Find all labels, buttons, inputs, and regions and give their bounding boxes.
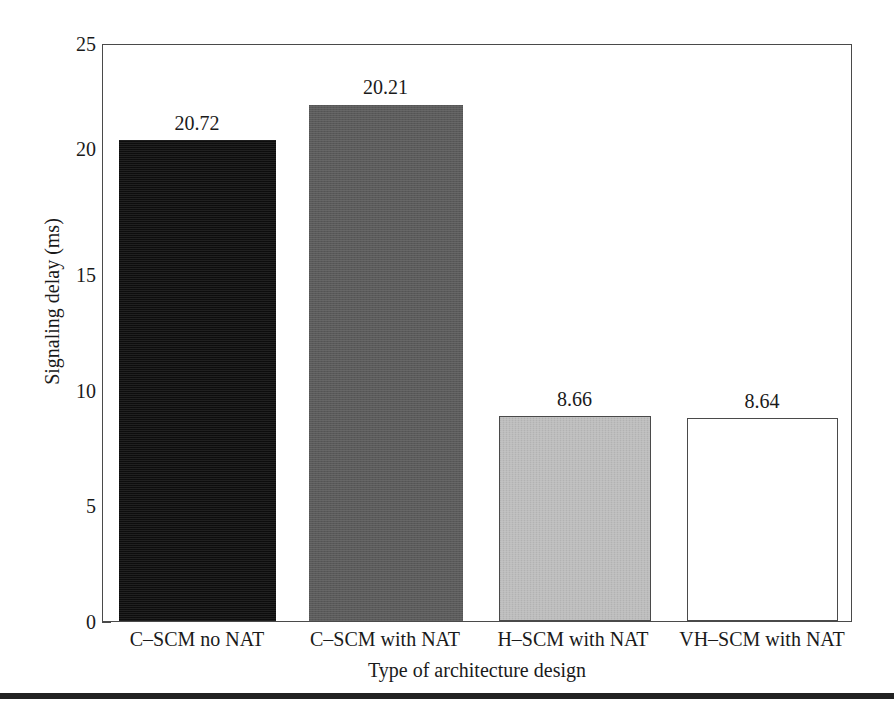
footer-rule [0, 693, 894, 699]
y-tick-label-20: 20 [0, 139, 96, 159]
x-tick-label-vh-scm-with-nat: VH–SCM with NAT [666, 628, 858, 651]
y-tick-label-0: 0 [0, 612, 96, 632]
y-tick-label-10: 10 [0, 381, 96, 401]
y-tick-label-5: 5 [0, 496, 96, 516]
x-tick-label-h-scm-with-nat: H–SCM with NAT [480, 628, 666, 651]
x-tick-label-c-scm-no-nat: C–SCM no NAT [104, 628, 290, 651]
bar-h-scm-with-nat[interactable] [499, 416, 651, 621]
bar-chart-figure: Signaling delay (ms) 0 5 10 15 20 25 20.… [0, 0, 894, 717]
y-tick-mark-0 [102, 622, 111, 623]
bar-value-label-1: 20.72 [118, 112, 276, 135]
x-axis-title: Type of architecture design [102, 659, 852, 682]
bar-c-scm-no-nat[interactable] [119, 140, 276, 621]
bar-texture [309, 105, 463, 621]
bar-value-label-3: 8.66 [498, 388, 651, 411]
bar-c-scm-with-nat[interactable] [309, 105, 463, 621]
bar-vh-scm-with-nat[interactable] [687, 418, 838, 621]
y-tick-label-25: 25 [0, 34, 96, 54]
bar-texture [500, 417, 650, 620]
bar-value-label-2: 20.21 [308, 76, 463, 99]
x-tick-label-c-scm-with-nat: C–SCM with NAT [292, 628, 478, 651]
bar-texture [119, 140, 276, 621]
y-tick-label-15: 15 [0, 265, 96, 285]
bar-value-label-4: 8.64 [686, 390, 838, 413]
